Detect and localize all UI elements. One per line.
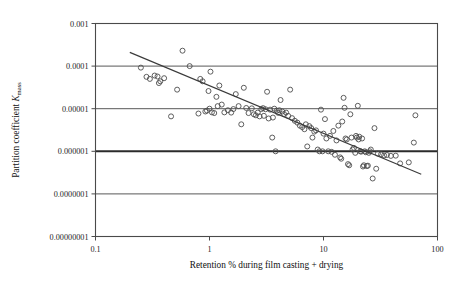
- data-point: [322, 117, 327, 122]
- data-point: [278, 98, 283, 103]
- plot-frame: [96, 24, 438, 237]
- y-title-prefix: Partition coefficient: [11, 102, 21, 178]
- data-point: [342, 105, 347, 110]
- data-point: [305, 144, 310, 149]
- data-point: [208, 69, 213, 74]
- data-point: [180, 48, 185, 53]
- trendline: [130, 52, 421, 174]
- y-tick-label: 0.0000001: [54, 190, 89, 199]
- data-point: [370, 176, 375, 181]
- data-point: [332, 152, 337, 157]
- y-tick-label: 0.00001: [62, 105, 89, 114]
- data-point: [241, 85, 246, 90]
- data-point: [175, 87, 180, 92]
- data-point: [355, 103, 360, 108]
- data-point: [155, 74, 160, 79]
- data-point: [336, 123, 341, 128]
- data-point: [340, 119, 345, 124]
- gridlines: [96, 66, 438, 194]
- x-axis-tick-labels: 0.1110100: [90, 245, 443, 254]
- data-point: [196, 111, 201, 116]
- data-point: [169, 114, 174, 119]
- data-point: [393, 153, 398, 158]
- data-point: [324, 136, 329, 141]
- tick-marks: [92, 24, 438, 241]
- data-point: [345, 162, 350, 167]
- y-tick-label: 0.0001: [66, 62, 89, 71]
- trend-line: [130, 52, 421, 174]
- x-axis-title-text: Retention % during film casting + drying: [190, 260, 344, 270]
- data-point: [411, 140, 416, 145]
- y-title-subscript: mass: [15, 82, 22, 96]
- data-point: [217, 83, 222, 88]
- data-point: [347, 163, 352, 168]
- data-point: [310, 135, 315, 140]
- data-point: [374, 166, 379, 171]
- y-axis-tick-labels: 0.0010.00010.000010.0000010.00000010.000…: [50, 20, 89, 242]
- data-point: [214, 94, 219, 99]
- data-point: [413, 113, 418, 118]
- data-point: [348, 112, 353, 117]
- data-point: [288, 87, 293, 92]
- data-point: [244, 105, 249, 110]
- scatter-chart: 0.0010.00010.000010.0000010.00000010.000…: [0, 0, 466, 285]
- data-point: [206, 89, 211, 94]
- data-point: [239, 122, 244, 127]
- data-point: [341, 95, 346, 100]
- y-tick-label: 0.00000001: [50, 233, 89, 242]
- x-tick-label: 10: [319, 245, 327, 254]
- data-point: [379, 152, 384, 157]
- x-tick-label: 100: [431, 245, 443, 254]
- y-axis-title: Partition coefficient Kmass: [11, 82, 22, 178]
- plot-border: [96, 24, 438, 237]
- x-tick-label: 1: [207, 245, 211, 254]
- x-axis-title: Retention % during film casting + drying: [190, 260, 344, 270]
- data-point: [265, 89, 270, 94]
- data-point: [344, 137, 349, 142]
- data-point: [372, 126, 377, 131]
- data-point: [406, 160, 411, 165]
- data-point: [236, 104, 241, 109]
- data-point: [162, 76, 167, 81]
- chart-figure: 0.0010.00010.000010.0000010.00000010.000…: [0, 0, 466, 285]
- data-point: [270, 135, 275, 140]
- x-tick-label: 0.1: [90, 245, 100, 254]
- y-tick-label: 0.001: [70, 20, 88, 29]
- data-point: [331, 128, 336, 133]
- data-point: [318, 107, 323, 112]
- y-tick-label: 0.000001: [58, 147, 89, 156]
- data-point: [246, 111, 251, 116]
- y-axis-title-text: Partition coefficient Kmass: [11, 82, 22, 178]
- data-point: [339, 156, 344, 161]
